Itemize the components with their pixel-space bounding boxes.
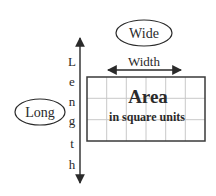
wide-bubble: Wide <box>116 20 172 46</box>
area-box: Area in square units <box>87 77 205 141</box>
length-letter: h <box>69 157 76 172</box>
area-title: Area <box>128 86 168 107</box>
width-label: Width <box>128 54 160 69</box>
width-arrow: Width <box>108 54 181 70</box>
long-label: Long <box>25 105 55 120</box>
length-letter: e <box>69 74 75 89</box>
area-subtitle: in square units <box>109 110 185 124</box>
area-diagram: Wide Width L e n g t h Long Area in squa… <box>0 0 216 196</box>
length-letter: n <box>69 94 76 109</box>
long-bubble: Long <box>15 99 65 125</box>
length-letter: g <box>69 113 76 128</box>
length-letter: t <box>70 136 74 151</box>
length-letter: L <box>68 54 76 69</box>
wide-label: Wide <box>129 26 159 41</box>
length-arrow: L e n g t h <box>68 38 80 183</box>
